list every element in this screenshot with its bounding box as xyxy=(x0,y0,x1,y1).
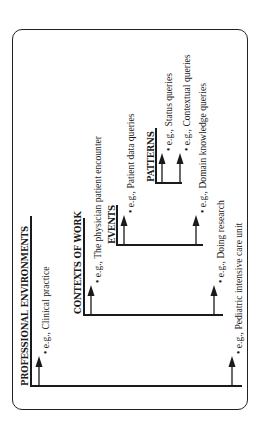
arrow-up-icon xyxy=(157,153,167,183)
example-pediatric-icu: • e.g., Pediatric intensive care unit xyxy=(233,223,244,354)
arrow-up-icon xyxy=(34,356,44,386)
header-contexts-of-work: CONTEXTS OF WORK xyxy=(73,211,83,314)
example-status-queries: • e.g., Status queries xyxy=(163,73,174,151)
header-rule xyxy=(83,218,85,315)
arrow-up-icon xyxy=(86,285,96,315)
arrow-up-icon xyxy=(227,356,237,386)
header-rule xyxy=(30,216,32,387)
example-patient-data-queries: • e.g., Patient data queries xyxy=(125,113,136,213)
arrow-up-icon xyxy=(175,153,185,183)
example-physician-patient-encounter: • e.g., The physician patient encounter xyxy=(92,136,103,283)
arrow-up-icon xyxy=(191,215,201,245)
example-doing-research: • e.g., Doing research xyxy=(215,200,226,283)
arrow-up-icon xyxy=(209,285,219,315)
example-domain-knowledge-queries: • e.g., Domain knowledge queries xyxy=(197,83,208,213)
example-clinical-practice: • e.g., Clinical practice xyxy=(40,266,51,354)
example-contextual-queries: • e.g., Contextual queries xyxy=(181,54,192,151)
branch-line xyxy=(116,244,203,246)
header-rule xyxy=(116,205,118,245)
branch-line xyxy=(83,314,223,316)
branch-line xyxy=(30,385,242,387)
header-professional-environments: PROFESSIONAL ENVIRONMENTS xyxy=(20,226,30,386)
arrow-up-icon xyxy=(119,215,129,245)
